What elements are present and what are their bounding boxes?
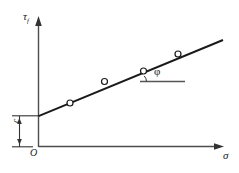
friction-angle-label: φ xyxy=(154,66,160,77)
y-axis-label-subscript: f xyxy=(27,17,29,24)
phi-angle-arc xyxy=(144,76,146,82)
cohesion-label: c xyxy=(11,119,21,123)
data-point xyxy=(141,68,147,74)
data-point xyxy=(67,100,73,106)
data-point xyxy=(102,79,108,85)
y-axis-label: τf xyxy=(23,11,29,25)
failure-envelope-line xyxy=(39,40,224,116)
data-point xyxy=(175,51,181,57)
origin-label: O xyxy=(30,148,37,158)
y-axis xyxy=(35,16,42,147)
x-axis-label: σ xyxy=(223,150,228,161)
cohesion-arrowhead-down xyxy=(17,139,22,145)
x-axis xyxy=(39,143,225,150)
y-axis-arrowhead xyxy=(35,16,42,26)
mohr-coulomb-failure-envelope-figure: τf σ O c φ xyxy=(0,0,239,173)
